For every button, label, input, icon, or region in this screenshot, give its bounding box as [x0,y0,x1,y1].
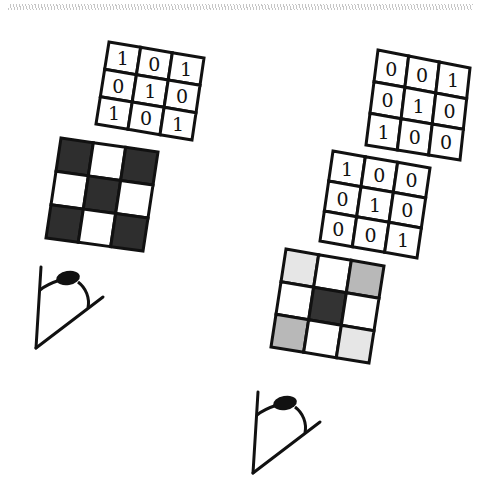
cell-value: 0 [373,164,385,186]
cell-value: 0 [409,126,421,148]
cell-value: 1 [180,58,192,80]
cell-value: 1 [117,47,129,69]
grid-cell [304,320,342,358]
cell-value: 0 [337,188,349,210]
cell-value: 0 [148,53,160,75]
cell-value: 1 [412,95,424,117]
cell-value: 0 [416,64,428,86]
cell-value: 0 [332,218,344,240]
diagram-canvas: 101010101 001010100 100010001 [0,0,498,501]
cell-value: 1 [144,80,156,102]
cell-value: 1 [341,158,353,180]
cell-value: 0 [140,107,152,129]
grid-cell [271,314,309,352]
cell-value: 0 [401,199,413,221]
cell-value: 0 [443,100,455,122]
right-eye-icon [253,392,320,473]
cell-value: 0 [365,224,377,246]
cell-value: 1 [447,69,459,91]
grid-cell [121,147,158,185]
right-shaded-grid [271,249,384,363]
cell-value: 0 [385,58,397,80]
cell-value: 0 [440,131,452,153]
right-middle-number-grid: 100010001 [320,151,430,258]
left-number-grid: 101010101 [96,42,204,140]
cell-value: 1 [172,113,184,135]
cell-value: 1 [378,121,390,143]
right-top-number-grid: 001010100 [366,50,470,160]
cell-value: 0 [112,75,124,97]
cell-value: 0 [381,89,393,111]
cell-value: 0 [406,169,418,191]
grid-cell [336,325,374,363]
cell-value: 1 [369,194,381,216]
cell-value: 0 [176,85,188,107]
cell-value: 1 [397,229,409,251]
left-eye-icon [36,267,103,348]
cell-value: 1 [108,102,120,124]
left-shaded-grid [46,138,158,251]
grid-cell [116,180,153,218]
grid-cell [111,214,148,251]
